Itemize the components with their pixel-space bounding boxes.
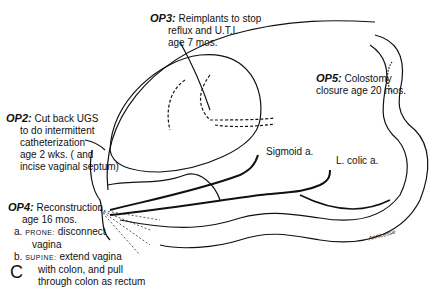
ureter-left	[168, 80, 185, 130]
op3-annotation: OP3: Reimplants to stop reflux and U.T.I…	[150, 12, 261, 49]
op4-line-1: Reconstruction	[36, 202, 103, 213]
sigmoid-artery-label: Sigmoid a.	[266, 146, 313, 158]
op3-line-3: age 7 mos.	[150, 37, 261, 49]
op2-line-1: Cut back UGS	[34, 113, 98, 124]
op5-line-1: Colostomy	[344, 73, 391, 84]
op5-tag: OP5:	[316, 72, 342, 84]
op4-step-a-marker: a.	[14, 226, 22, 237]
op5-line-2: closure age 20 mos.	[316, 85, 406, 97]
op4-tag: OP4:	[8, 201, 34, 213]
ureter-right	[201, 75, 275, 120]
op4-step-a-position: PRONE:	[25, 229, 55, 236]
op4-step-b-marker: b.	[14, 251, 22, 262]
colon-upper-wall	[160, 35, 428, 248]
op4-step-b-text3: through colon as rectum	[8, 276, 145, 288]
op4-step-a-text2: vagina	[8, 239, 145, 251]
op4-step-b-position: SUPINE:	[25, 254, 57, 261]
op5-annotation: OP5: Colostomy closure age 20 mos.	[316, 72, 406, 97]
op2-tag: OP2:	[6, 112, 32, 124]
op4-step-b-text: extend vagina	[59, 251, 121, 262]
op4-line-2: age 16 mos.	[8, 214, 145, 226]
bladder-outline	[110, 55, 261, 172]
op3-line-1: Reimplants to stop	[178, 13, 261, 24]
op3-tag: OP3:	[150, 12, 176, 24]
op2-line-4: age 2 wks. ( and	[6, 149, 119, 161]
op4-annotation: OP4: Reconstruction age 16 mos. a. PRONE…	[8, 201, 145, 288]
op2-line-2: to do intermittent	[6, 125, 119, 137]
panel-label: C	[10, 262, 23, 283]
ureter-right-2	[215, 124, 275, 127]
op2-line-5: incise vaginal septum)	[6, 161, 119, 173]
op2-line-3: catheterization	[6, 137, 119, 149]
op4-step-a-text: disconnect	[58, 226, 106, 237]
op4-step-b-text2: with colon, and pull	[8, 264, 145, 276]
op2-annotation: OP2: Cut back UGS to do intermittent cat…	[6, 112, 119, 173]
op3-line-2: reflux and U.T.I.	[150, 25, 261, 37]
op3-arrow	[180, 42, 210, 110]
left-colic-artery-label: L. colic a.	[336, 155, 378, 167]
artery-branch	[300, 195, 390, 209]
